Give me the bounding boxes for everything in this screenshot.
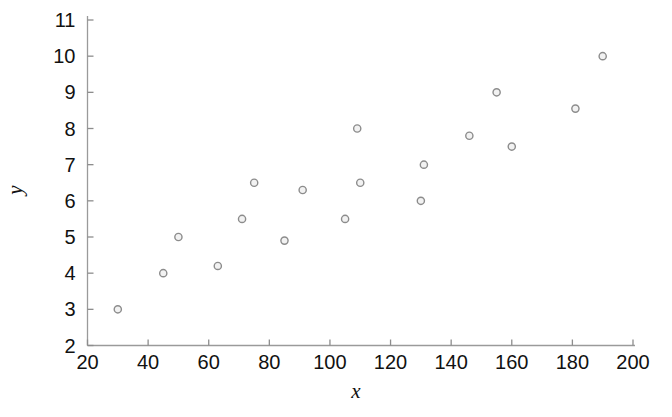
x-tick-label: 40 <box>137 351 159 373</box>
data-points-group <box>114 53 606 313</box>
y-tick-label: 10 <box>53 45 75 67</box>
scatter-plot-canvas: 20406080100120140160180200 234567891011 … <box>0 0 672 417</box>
y-tick-label: 11 <box>55 9 76 31</box>
chart-figure: 20406080100120140160180200 234567891011 … <box>0 0 672 417</box>
y-tick-label: 2 <box>64 335 75 357</box>
data-point <box>420 161 427 168</box>
data-point <box>599 53 606 60</box>
x-axis-title: x <box>350 379 361 403</box>
x-tick-label: 200 <box>616 351 649 373</box>
y-tick-label: 3 <box>64 298 75 320</box>
x-tick-label: 120 <box>374 351 407 373</box>
data-point <box>160 270 167 277</box>
y-tick-label: 8 <box>64 118 75 140</box>
x-tick-labels-group: 20406080100120140160180200 <box>76 351 649 373</box>
y-tick-label: 9 <box>64 81 75 103</box>
x-tick-label: 100 <box>313 351 346 373</box>
x-tick-label: 140 <box>434 351 467 373</box>
data-point <box>417 197 424 204</box>
data-point <box>508 143 515 150</box>
data-point <box>214 262 221 269</box>
x-tick-label: 60 <box>198 351 220 373</box>
y-axis-title: y <box>3 185 27 197</box>
data-point <box>493 89 500 96</box>
x-tick-label: 160 <box>495 351 528 373</box>
data-point <box>572 105 579 112</box>
data-point <box>357 179 364 186</box>
data-point <box>251 179 258 186</box>
data-point <box>341 215 348 222</box>
data-point <box>238 215 245 222</box>
data-point <box>299 186 306 193</box>
x-tick-label: 20 <box>76 351 98 373</box>
data-point <box>281 237 288 244</box>
y-tick-labels-group: 234567891011 <box>53 9 75 357</box>
x-tick-label: 80 <box>258 351 280 373</box>
data-point <box>354 125 361 132</box>
data-point <box>114 306 121 313</box>
y-tick-label: 6 <box>64 190 75 212</box>
y-tick-label: 5 <box>64 226 75 248</box>
data-point <box>175 233 182 240</box>
y-tick-label: 4 <box>64 262 75 284</box>
data-point <box>466 132 473 139</box>
x-tick-label: 180 <box>556 351 589 373</box>
y-tick-label: 7 <box>64 154 75 176</box>
